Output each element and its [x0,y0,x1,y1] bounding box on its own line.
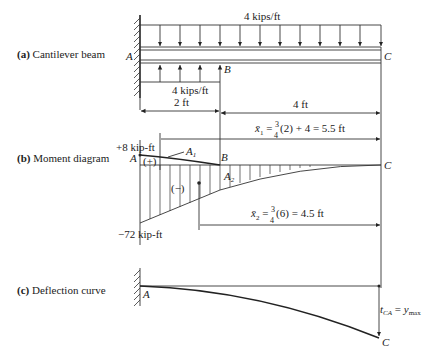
xbar1-equation: x̄1 = 34(2) + 4 = 5.5 ft [254,120,345,140]
area1-label: A1 [185,145,196,159]
deflection-point-a: A [142,288,150,300]
deflection-curve [140,286,379,338]
tca-ymax-label: tCA = ymax [380,303,421,317]
dim-bc-label: 4 ft [293,98,308,110]
moment-diagram: x̄1 = 34(2) + 4 = 5.5 ft +8 kip-ft (+) A… [116,120,392,288]
deflection-curve-diagram: A C tCA = ymax [134,268,421,348]
area2-label: A2 [223,170,235,184]
point-c-label: C [384,50,392,62]
panel-c-label: (c) Deflection curve [17,284,106,297]
bottom-load-label: 4 kips/ft [172,84,208,96]
panel-b-label: (b) Moment diagram [17,152,110,165]
moment-point-b: B [221,151,228,163]
point-a-label: A [125,50,133,62]
negative-sign: (−) [171,182,185,195]
moment-point-c: C [384,159,392,171]
cantilever-beam: A 4 kips/ft C B [125,10,392,165]
beam-body [140,47,381,63]
upward-load-arrows [140,65,220,82]
point-b-label: B [224,63,231,75]
deflection-point-c: C [382,336,390,348]
wall-hatching-icon [134,18,140,96]
xbar2-equation: x̄2 = 34(6) = 4.5 ft [250,205,324,225]
max-negative-moment-label: −72 kip-ft [118,228,162,240]
deflection-wall-hatching-icon [134,270,140,306]
beam-deflection-diagram: (a) Cantilever beam (b) Moment diagram (… [0,0,435,355]
dim-ab-label: 2 ft [174,96,189,108]
top-load-label: 4 kips/ft [244,10,280,22]
panel-a-label: (a) Cantilever beam [17,48,105,61]
downward-load-arrows [160,25,381,46]
moment-point-a: A [129,152,137,164]
